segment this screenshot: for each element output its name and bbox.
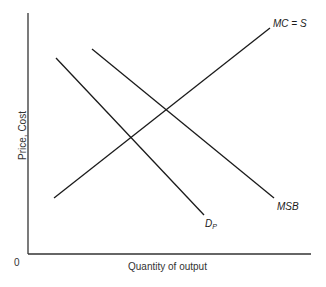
mc-supply-line bbox=[54, 28, 270, 198]
y-axis-label: Price, Cost bbox=[17, 96, 28, 176]
chart-canvas bbox=[0, 0, 326, 287]
x-axis-label: Quantity of output bbox=[128, 261, 207, 272]
dp-label-sub: P bbox=[212, 223, 217, 230]
mc-label: MC = S bbox=[273, 18, 307, 29]
origin-label: 0 bbox=[14, 257, 20, 268]
msb-label: MSB bbox=[277, 201, 299, 212]
msb-line bbox=[92, 49, 274, 198]
private-demand-line bbox=[56, 58, 204, 215]
dp-label: DP bbox=[205, 218, 217, 230]
